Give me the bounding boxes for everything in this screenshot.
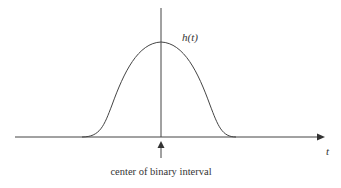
pulse-diagram: h(t) t center of binary interval <box>0 0 341 188</box>
curve-label: h(t) <box>182 31 198 44</box>
pulse-curve <box>82 42 236 137</box>
time-axis-arrowhead-icon <box>317 134 325 141</box>
marker-caption: center of binary interval <box>110 166 211 177</box>
time-axis-label: t <box>326 145 330 157</box>
center-marker-arrow-icon <box>158 141 165 148</box>
